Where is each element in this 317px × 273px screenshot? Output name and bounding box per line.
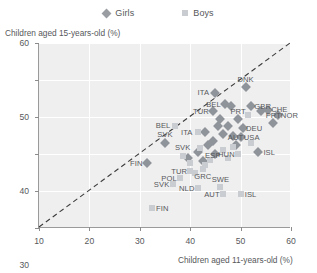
- data-point-boys[interactable]: [238, 191, 244, 197]
- data-point-label: NOR: [281, 111, 298, 120]
- x-axis-tick: 60: [291, 227, 292, 231]
- diamond-marker-icon: [102, 8, 112, 18]
- x-axis-tick: 10: [39, 227, 40, 231]
- data-point-boys[interactable]: [245, 112, 251, 118]
- y-axis-tick: 40: [35, 117, 39, 118]
- data-point-label: PRT: [230, 106, 245, 115]
- y-axis-tick: 50: [35, 80, 39, 81]
- x-axis-tick-label: 20: [85, 236, 95, 246]
- data-point-label: BEL: [156, 121, 171, 130]
- data-point-label: NLD: [179, 184, 195, 193]
- y-axis-tick-label: 40: [19, 186, 29, 196]
- y-axis-tick: 30: [35, 154, 39, 155]
- x-axis-tick-label: 30: [135, 236, 145, 246]
- data-point-boys[interactable]: [149, 205, 155, 211]
- data-point-boys[interactable]: [195, 185, 201, 191]
- legend-label-boys: Boys: [193, 8, 213, 18]
- data-point-label: ISL: [245, 189, 257, 198]
- chart-legend: Girls Boys: [0, 4, 317, 22]
- data-point-boys[interactable]: [195, 129, 201, 135]
- data-point-label: PRT: [266, 110, 281, 119]
- data-point-label: USA: [244, 133, 260, 142]
- y-axis-tick: 20: [35, 191, 39, 192]
- x-axis-tick-label: 50: [236, 236, 246, 246]
- data-point-label: ITA: [198, 87, 210, 96]
- data-point-label: SVK: [175, 142, 191, 151]
- gridline-vertical: [291, 43, 292, 227]
- y-axis-tick-label: 60: [19, 38, 29, 48]
- data-point-label: AUT: [204, 189, 220, 198]
- x-axis-title: Children aged 11-years-old (%): [178, 255, 293, 265]
- data-point-label: TUR: [193, 107, 209, 116]
- data-point-boys[interactable]: [235, 151, 241, 157]
- data-point-label: FIN: [130, 159, 143, 168]
- data-point-label: SVK: [154, 179, 170, 188]
- y-axis-tick-label: 30: [19, 260, 29, 270]
- data-point-boys[interactable]: [220, 191, 226, 197]
- legend-label-girls: Girls: [115, 8, 134, 18]
- square-marker-icon: [182, 10, 188, 16]
- data-point-label: SVK: [157, 129, 173, 138]
- x-axis-tick: 30: [140, 227, 141, 231]
- data-point-label: DEU: [246, 124, 262, 133]
- data-point-boys[interactable]: [172, 123, 178, 129]
- legend-item-girls[interactable]: Girls: [103, 8, 134, 18]
- data-point-label: GBR: [254, 101, 271, 110]
- data-point-boys[interactable]: [197, 145, 203, 151]
- x-axis-tick-label: 60: [286, 236, 296, 246]
- data-point-label: ISL: [263, 148, 275, 157]
- y-axis-title: Children aged 15-years-old (%): [5, 28, 120, 38]
- y-axis-tick-label: 50: [19, 112, 29, 122]
- data-point-label: FIN: [156, 203, 169, 212]
- data-point-boys[interactable]: [187, 160, 193, 166]
- data-point-boys[interactable]: [177, 175, 183, 181]
- y-axis-tick: 60: [35, 43, 39, 44]
- x-axis-tick: 40: [190, 227, 191, 231]
- data-point-label: GRC: [194, 171, 211, 180]
- data-point-label: AUT: [228, 132, 244, 141]
- x-axis-tick-label: 10: [34, 236, 44, 246]
- x-axis-tick-label: 40: [185, 236, 195, 246]
- data-point-label: DNK: [237, 75, 253, 84]
- legend-item-boys[interactable]: Boys: [182, 8, 213, 18]
- data-point-boys[interactable]: [202, 162, 208, 168]
- data-point-boys[interactable]: [180, 153, 186, 159]
- data-point-label: SWE: [212, 175, 230, 184]
- x-axis-tick: 50: [241, 227, 242, 231]
- x-axis-tick: 20: [89, 227, 90, 231]
- data-point-label: ESP: [205, 151, 221, 160]
- data-point-label: ITA: [181, 127, 193, 136]
- scatter-plot-area: 102030405060102030405060 ITADNKBELGBRCHE…: [38, 43, 290, 228]
